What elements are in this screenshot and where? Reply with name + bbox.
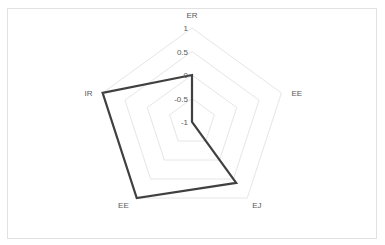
radar-labels: 10.50-0.5-1EREEEJEEIR [85, 11, 302, 210]
radar-series [103, 75, 237, 198]
axis-label-ir: IR [85, 89, 93, 98]
axis-label-ee: EE [291, 89, 302, 98]
tick-label: -1 [181, 118, 189, 127]
tick-label: 0.5 [177, 48, 189, 57]
radar-chart: 10.50-0.5-1EREEEJEEIR [0, 0, 385, 245]
tick-label: -0.5 [174, 95, 188, 104]
axis-label-er: ER [186, 11, 197, 20]
axis-label-ee: EE [118, 201, 129, 210]
tick-label: 0 [184, 71, 189, 80]
axis-label-ej: EJ [252, 201, 261, 210]
tick-label: 1 [184, 24, 189, 33]
series-line [103, 75, 237, 198]
